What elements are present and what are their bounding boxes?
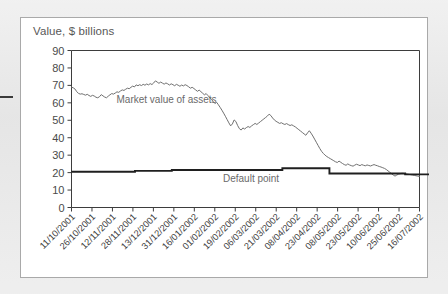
screenshot-root: Value, $ billions 0102030405060708090 11… [0, 0, 448, 294]
y-tick-label: 10 [52, 184, 64, 196]
y-tick-label: 70 [52, 79, 64, 91]
y-tick-label: 40 [52, 132, 64, 144]
figure-card: Value, $ billions 0102030405060708090 11… [20, 17, 428, 278]
y-tick-label: 30 [52, 149, 64, 161]
default-point-annotation: Default point [223, 173, 279, 184]
y-tick-label: 50 [52, 114, 64, 126]
margin-dash-mark [0, 96, 13, 98]
plot-area: 0102030405060708090 11/10/200126/10/2001… [21, 18, 429, 279]
market-value-annotation: Market value of assets [117, 94, 217, 105]
y-axis-ticks: 0102030405060708090 [52, 45, 71, 214]
y-tick-label: 80 [52, 62, 64, 74]
y-tick-label: 20 [52, 167, 64, 179]
x-axis-ticks: 11/10/200126/10/200112/11/200128/11/2001… [38, 208, 425, 252]
y-tick-label: 60 [52, 97, 64, 109]
y-tick-label: 90 [52, 45, 64, 57]
y-tick-label: 0 [58, 202, 64, 214]
line-chart-svg: 0102030405060708090 11/10/200126/10/2001… [21, 18, 429, 279]
